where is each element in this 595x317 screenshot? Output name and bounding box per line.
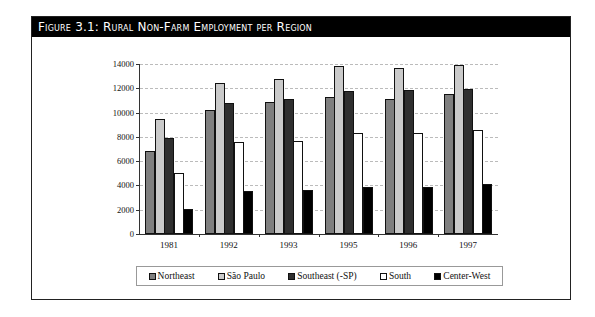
bar-south-1996 [413,133,423,234]
bar-southeast-sp-1997 [463,89,473,234]
y-tick-mark [136,88,139,89]
y-tick-mark [136,137,139,138]
figure-frame: Figure 3.1: Rural Non-Farm Employment pe… [31,16,571,300]
bar-northeast-1997 [444,94,454,234]
y-tick-label: 2000 [84,205,134,215]
legend-label: Center-West [443,271,490,281]
y-tick-mark [136,210,139,211]
y-tick-label: 14000 [84,59,134,69]
legend-swatch-icon [380,273,387,280]
legend-item-south: South [380,271,411,281]
bar-south-1992 [234,142,244,234]
legend-swatch-icon [434,273,441,280]
bar-center-west-1995 [363,187,373,234]
bar-s-o-paulo-1993 [274,79,284,234]
figure-title: Figure 3.1: Rural Non-Farm Employment pe… [32,17,570,37]
bar-northeast-1995 [325,97,335,234]
legend-label: South [389,271,411,281]
chart-legend: Northeast São Paulo Southeast (-SP) Sout… [136,266,503,286]
legend-label: Southeast (-SP) [297,271,356,281]
x-tick-mark [378,234,379,237]
bar-s-o-paulo-1997 [454,65,464,234]
x-tick-mark [199,234,200,237]
bar-southeast-sp-1995 [344,91,354,234]
bar-northeast-1981 [145,151,155,234]
y-tick-mark [136,64,139,65]
x-tick-mark [259,234,260,237]
legend-item-northeast: Northeast [149,271,195,281]
bar-center-west-1996 [423,187,433,234]
y-tick-mark [136,161,139,162]
legend-item-center-west: Center-West [434,271,490,281]
bar-center-west-1993 [303,190,313,234]
bar-center-west-1992 [243,191,253,234]
gridline [140,64,498,65]
bar-s-o-paulo-1992 [215,83,225,234]
bar-northeast-1996 [385,99,395,234]
x-tick-label: 1995 [318,240,378,250]
y-tick-mark [136,113,139,114]
x-tick-label: 1981 [139,240,199,250]
legend-item-sao-paulo: São Paulo [218,271,265,281]
x-tick-label: 1993 [259,240,319,250]
gridline [140,88,498,89]
x-tick-mark [438,234,439,237]
bar-south-1993 [293,141,303,235]
legend-swatch-icon [288,273,295,280]
bar-south-1981 [174,173,184,234]
y-tick-label: 6000 [84,156,134,166]
y-tick-mark [136,185,139,186]
bar-s-o-paulo-1996 [394,68,404,234]
bar-s-o-paulo-1995 [334,66,344,234]
legend-swatch-icon [149,273,156,280]
legend-item-southeast: Southeast (-SP) [288,271,356,281]
bar-southeast-sp-1993 [284,99,294,234]
x-tick-label: 1996 [378,240,438,250]
bar-northeast-1993 [265,102,275,234]
bar-chart-plot-area: 0200040006000800010000120001400019811992… [139,64,498,234]
y-tick-label: 10000 [84,108,134,118]
bar-s-o-paulo-1981 [155,119,165,234]
legend-label: São Paulo [227,271,265,281]
y-tick-label: 4000 [84,180,134,190]
bar-center-west-1997 [482,184,492,234]
bar-southeast-sp-1981 [164,138,174,234]
bar-center-west-1981 [183,209,193,234]
legend-label: Northeast [158,271,195,281]
y-tick-mark [136,234,139,235]
x-tick-label: 1997 [438,240,498,250]
y-tick-label: 12000 [84,83,134,93]
legend-swatch-icon [218,273,225,280]
x-tick-mark [319,234,320,237]
x-tick-label: 1992 [199,240,259,250]
bar-northeast-1992 [205,110,215,234]
y-tick-label: 0 [84,229,134,239]
bar-southeast-sp-1996 [404,90,414,234]
bar-south-1995 [353,133,363,234]
y-tick-label: 8000 [84,132,134,142]
bar-southeast-sp-1992 [224,103,234,234]
bar-south-1997 [473,130,483,234]
